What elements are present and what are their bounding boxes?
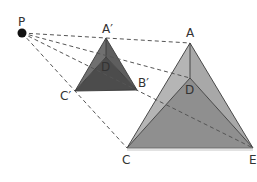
label-d-prime: D	[101, 60, 110, 74]
label-c: C	[122, 153, 130, 167]
diagram-canvas: P A′ D C′ B′ A D C E	[0, 0, 257, 182]
projection-diagram: P A′ D C′ B′ A D C E	[0, 0, 257, 182]
label-a-prime: A′	[102, 22, 113, 36]
label-a: A	[186, 26, 195, 40]
center-point-p	[18, 29, 27, 38]
label-b-prime: B′	[138, 76, 149, 90]
label-d: D	[185, 83, 194, 97]
label-c-prime: C′	[60, 89, 71, 103]
label-e: E	[249, 153, 257, 167]
label-p: P	[18, 15, 25, 29]
